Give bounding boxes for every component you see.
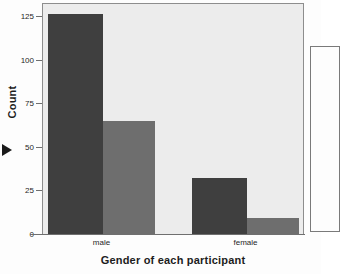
y-axis-tick — [36, 103, 42, 104]
y-axis-tick-label: 75 — [4, 99, 34, 108]
x-axis-line — [30, 234, 305, 235]
bar-male-series-2 — [103, 121, 155, 234]
y-axis-tick-label: 25 — [4, 186, 34, 195]
x-axis-category-label: male — [93, 238, 110, 247]
y-axis-tick-label: 100 — [4, 55, 34, 64]
legend-box — [310, 46, 340, 232]
bar-female-series-2 — [247, 218, 299, 234]
y-axis-tick — [36, 190, 42, 191]
bar-female-series-1 — [192, 178, 247, 234]
y-axis-tick-label: 125 — [4, 12, 34, 21]
y-axis-tick — [36, 60, 42, 61]
y-axis-tick-label: 50 — [4, 142, 34, 151]
x-axis-category-label: female — [233, 238, 257, 247]
x-axis-title: Gender of each participant — [42, 254, 304, 266]
y-axis-tick — [36, 147, 42, 148]
y-axis-tick — [36, 16, 42, 17]
bar-male-series-1 — [48, 14, 103, 234]
